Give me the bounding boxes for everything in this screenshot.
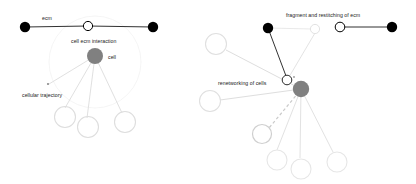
ecm-restitched-node-filled — [387, 22, 397, 32]
right-panel: fragment and restitching of ecm renetwor… — [200, 12, 398, 179]
network-edge-low-3 — [301, 89, 333, 152]
ecm-restitched-node-open — [335, 22, 345, 32]
ecm-link-right — [88, 26, 153, 27]
network-node-far-2 — [200, 91, 221, 112]
cell-node — [87, 48, 103, 64]
diagram-svg: ecm cell ecm interaction cell cellular t… — [0, 0, 416, 184]
ecm-node-right — [148, 22, 158, 32]
label-fragment-and-restitching-of-ecm: fragment and restitching of ecm — [286, 12, 360, 18]
cell-node — [293, 81, 309, 97]
ecm-fragment-edge-faint-top — [268, 28, 312, 29]
network-node-low-3 — [327, 152, 347, 172]
network-node-low-1 — [267, 150, 287, 170]
trajectory-marker-icon — [47, 83, 49, 85]
figure-canvas: ecm cell ecm interaction cell cellular t… — [0, 0, 416, 184]
ecm-fragment-node-filled — [263, 23, 273, 33]
trajectory-edge-4 — [95, 56, 122, 113]
network-edge-low-2 — [300, 89, 301, 158]
ecm-fragment-node-faint — [310, 24, 319, 33]
network-edge-dashed — [269, 92, 299, 128]
network-node-far-1 — [206, 34, 227, 55]
ecm-link-left — [25, 26, 88, 27]
label-cellular-trajectory: cellular trajectory — [22, 92, 63, 98]
ecm-node-middle — [83, 21, 92, 30]
label-ecm: ecm — [42, 15, 52, 21]
ecm-junction-node — [282, 75, 292, 85]
junction-marker-icon — [293, 76, 295, 78]
renetworking-edges — [220, 50, 333, 158]
network-edge-low-1 — [277, 89, 301, 150]
trajectory-edge-3 — [87, 56, 95, 118]
label-cell-ecm-interaction: cell ecm interaction — [71, 38, 116, 44]
ecm-fragment-edge-dark — [268, 28, 286, 76]
label-cell: cell — [108, 54, 116, 60]
trajectory-node-3 — [115, 112, 136, 133]
network-edge-far-2 — [220, 89, 301, 100]
ecm-fragment-edge-faint-down — [289, 33, 315, 77]
trajectory-edge-1 — [49, 56, 95, 84]
trajectory-node-1 — [55, 107, 76, 128]
trajectory-node-2 — [78, 117, 99, 138]
label-renetworking-of-cells: renetworking of cells — [218, 80, 267, 86]
ecm-node-left — [20, 22, 30, 32]
trajectory-edge-2 — [65, 56, 95, 108]
network-node-dashed — [253, 125, 272, 144]
left-panel: ecm cell ecm interaction cell cellular t… — [20, 15, 158, 138]
network-node-low-2 — [291, 159, 311, 179]
cellular-trajectory-edges — [49, 56, 122, 118]
